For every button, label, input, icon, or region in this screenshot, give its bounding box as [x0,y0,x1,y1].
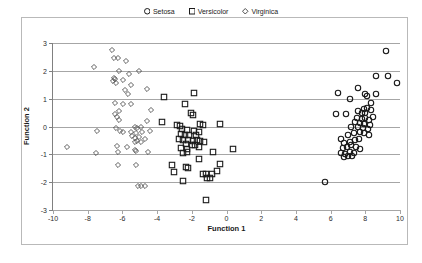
chart-legend: SetosaVersicolorVirginica [0,8,422,15]
x-tick-mark [365,210,366,214]
y-tick-mark [49,127,53,128]
x-tick-mark [157,210,158,214]
gridline [53,43,400,44]
legend-label: Virginica [251,8,278,15]
legend-label: Versicolor [198,8,229,15]
scatter-plot-figure: SetosaVersicolorVirginica 3210-1-2-3 -10… [0,0,422,263]
x-tick-label: -6 [119,215,125,222]
x-tick-label: 10 [396,215,404,222]
y-tick-mark [49,182,53,183]
y-tick-label: 1 [43,95,47,102]
x-tick-label: 8 [363,215,367,222]
legend-item-setosa[interactable]: Setosa [144,8,175,15]
x-tick-mark [227,210,228,214]
y-axis-label: Function 2 [22,107,31,145]
x-tick-mark [261,210,262,214]
legend-item-versicolor[interactable]: Versicolor [189,8,229,15]
diamond-icon [242,8,249,15]
y-tick-mark [49,154,53,155]
x-tick-mark [400,210,401,214]
y-tick-label: -3 [41,207,47,214]
y-tick-label: 3 [43,40,47,47]
y-tick-label: 2 [43,67,47,74]
y-tick-label: -2 [41,179,47,186]
gridline [53,71,400,72]
x-tick-mark [122,210,123,214]
gridline [53,154,400,155]
x-tick-label: -10 [48,215,58,222]
y-tick-mark [49,99,53,100]
gridline [53,127,400,128]
x-tick-mark [88,210,89,214]
x-tick-mark [296,210,297,214]
legend-item-virginica[interactable]: Virginica [242,8,278,15]
x-tick-label: 2 [259,215,263,222]
x-tick-mark [53,210,54,214]
circle-icon [144,8,151,15]
x-axis-label: Function 1 [53,224,400,233]
x-tick-label: -4 [154,215,160,222]
x-tick-mark [192,210,193,214]
y-tick-mark [49,71,53,72]
gridline [53,182,400,183]
x-tick-label: 4 [294,215,298,222]
gridline [53,99,400,100]
y-tick-label: 0 [43,123,47,130]
y-tick-label: -1 [41,151,47,158]
y-tick-mark [49,43,53,44]
x-tick-mark [331,210,332,214]
x-tick-label: 6 [329,215,333,222]
x-tick-label: -2 [189,215,195,222]
x-tick-label: 0 [225,215,229,222]
x-tick-label: -8 [85,215,91,222]
legend-label: Setosa [153,8,175,15]
square-icon [189,8,196,15]
plot-area: 3210-1-2-3 -10-8-6-4-20246810 [53,43,400,210]
